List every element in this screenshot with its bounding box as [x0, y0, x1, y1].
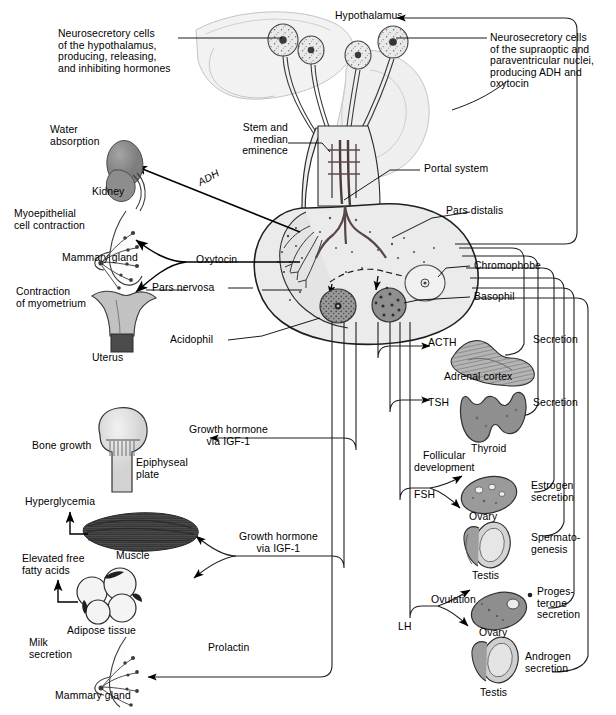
muscle-illustration	[83, 513, 198, 552]
label-testis-lh: Testis	[480, 687, 507, 699]
label-contraction-of-myometrium: Contraction of myometrium	[16, 286, 86, 309]
label-secretion-adrenal: Secretion	[533, 334, 578, 346]
label-testis-fsh: Testis	[472, 570, 499, 582]
label-myoepithelial-cell-contraction: Myoepithelial cell contraction	[14, 208, 85, 231]
label-ovary-lh: Ovary	[479, 627, 507, 639]
label-hyperglycemia: Hyperglycemia	[25, 496, 95, 508]
adipose-tissue-illustration	[77, 568, 142, 624]
label-mammary-gland-bottom: Mammary gland	[55, 690, 131, 702]
label-chromophobe: Chromophobe	[474, 260, 541, 272]
label-progesterone-secretion: Proges- terone secretion	[537, 586, 580, 621]
label-adipose-tissue: Adipose tissue	[67, 625, 136, 637]
acidophil-cell	[320, 289, 356, 323]
label-androgen-secretion: Androgen secretion	[525, 651, 571, 674]
label-ovary-fsh: Ovary	[469, 511, 497, 523]
label-fsh: FSH	[414, 489, 435, 501]
label-oxytocin: Oxytocin	[196, 254, 237, 266]
testis-illustration-lh	[472, 634, 522, 686]
uterus-illustration	[92, 291, 156, 352]
label-follicular-development: Follicular development	[414, 450, 475, 473]
label-water-absorption: Water absorption	[50, 124, 100, 147]
label-lh: LH	[398, 621, 411, 633]
label-basophil: Basophil	[474, 291, 515, 303]
label-mammary-gland-top: Mammary gland	[62, 252, 138, 264]
label-tsh: TSH	[428, 397, 449, 409]
label-neurosecretory-cells-hypothalamus: Neurosecretory cells of the hypothalamus…	[58, 28, 171, 74]
label-pars-distalis: Pars distalis	[446, 205, 503, 217]
label-pars-nervosa: Pars nervosa	[152, 282, 214, 294]
label-stem-and-median-eminence: Stem and median eminence	[150, 122, 288, 157]
mammary-gland-illustration-top	[95, 211, 142, 290]
label-elevated-free-fatty-acids: Elevated free fatty acids	[22, 553, 85, 576]
label-growth-hormone-muscle: Growth hormone via IGF-1	[239, 531, 318, 554]
label-uterus: Uterus	[92, 352, 123, 364]
label-hypothalamus: Hypothalamus	[335, 10, 403, 22]
testis-illustration-fsh	[464, 519, 514, 571]
diagram-canvas: Hypothalamus Neurosecretory cells of the…	[0, 0, 616, 715]
chromophobe-cell	[405, 265, 445, 301]
label-growth-hormone-bone: Growth hormone via IGF-1	[189, 424, 268, 447]
label-estrogen-secretion: Estrogen secretion	[531, 480, 574, 503]
label-spermatogenesis: Spermato- genesis	[531, 532, 580, 555]
label-ovulation: Ovulation	[431, 594, 476, 606]
label-neurosecretory-cells-supraoptic: Neurosecretory cells of the supraoptic a…	[490, 32, 594, 90]
label-acth: ACTH	[428, 337, 457, 349]
label-secretion-thyroid: Secretion	[533, 397, 578, 409]
label-adrenal-cortex: Adrenal cortex	[444, 371, 512, 383]
label-muscle: Muscle	[116, 550, 150, 562]
thyroid-illustration	[460, 392, 526, 442]
label-milk-secretion: Milk secretion	[29, 637, 72, 660]
label-epiphyseal-plate: Epiphyseal plate	[136, 457, 188, 480]
pituitary-gland-illustration	[254, 126, 478, 344]
label-portal-system: Portal system	[424, 163, 488, 175]
label-kidney: Kidney	[92, 186, 124, 198]
label-prolactin: Prolactin	[208, 642, 249, 654]
efferent-hormone-lines	[148, 322, 438, 677]
label-bone-growth: Bone growth	[32, 440, 91, 452]
label-acidophil: Acidophil	[170, 334, 213, 346]
label-thyroid: Thyroid	[471, 443, 506, 455]
kidney-illustration	[106, 141, 145, 211]
